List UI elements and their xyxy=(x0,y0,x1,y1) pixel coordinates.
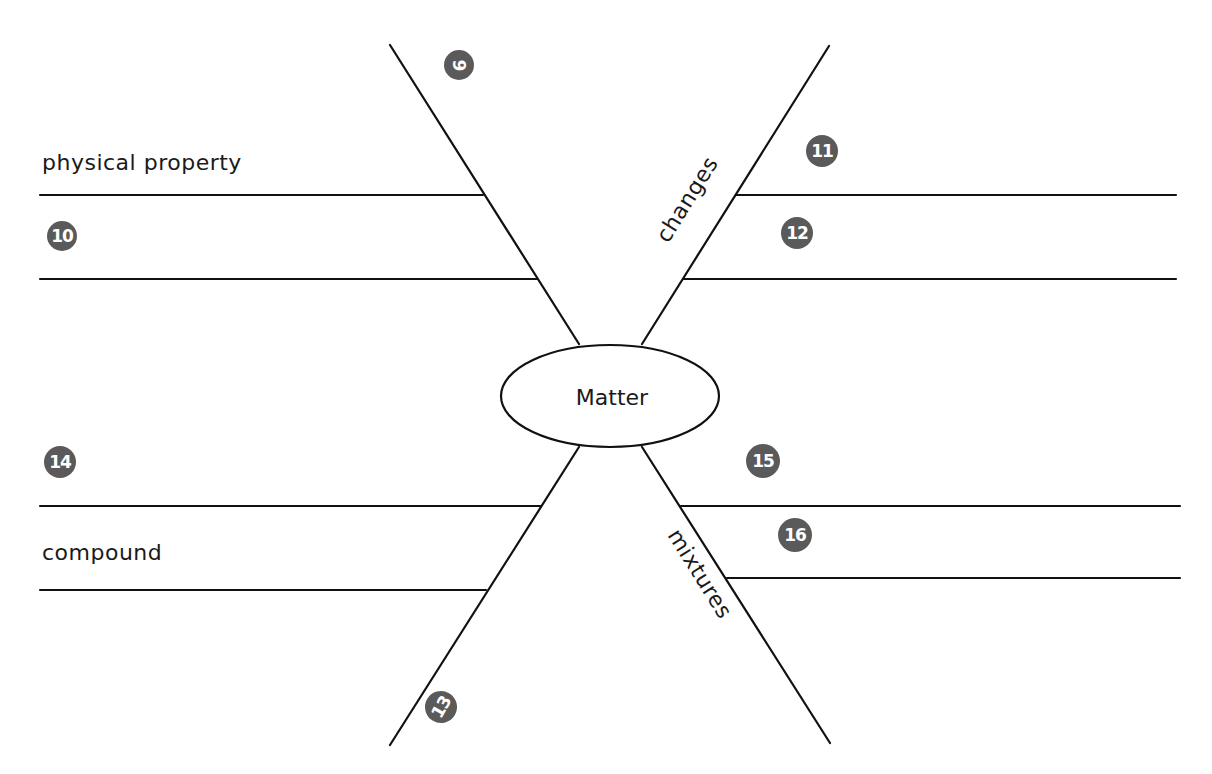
badge-number: 14 xyxy=(49,452,72,472)
diagonal-line-lower-left xyxy=(390,447,579,745)
badge-14: 14 xyxy=(44,446,76,478)
badge-number: 10 xyxy=(51,226,74,246)
badge-10: 10 xyxy=(47,221,77,251)
badge-number: 15 xyxy=(752,451,774,471)
badge-9: 9 xyxy=(444,50,474,80)
badge-16: 16 xyxy=(778,518,812,552)
branch-text-compound: compound xyxy=(42,540,162,565)
leg-lower-left: 14 compound 13 xyxy=(40,446,579,745)
badge-number: 9 xyxy=(449,60,469,71)
badge-15: 15 xyxy=(746,444,780,478)
center-node: Matter xyxy=(501,345,719,447)
leg-upper-left: 9 physical property 10 xyxy=(40,45,579,344)
badge-number: 16 xyxy=(784,525,806,545)
badge-number: 11 xyxy=(811,141,833,161)
badge-number: 12 xyxy=(786,223,808,243)
leg-lower-right: 15 16 mixtures xyxy=(642,444,1180,743)
matter-spider-map: 9 physical property 10 changes 11 12 Mat… xyxy=(0,0,1212,774)
branch-text-physical-property: physical property xyxy=(42,150,242,175)
leg-upper-right: changes 11 12 xyxy=(642,46,1176,344)
badge-12: 12 xyxy=(781,217,813,249)
badge-13: 13 xyxy=(419,685,463,729)
diagonal-line-lower-right xyxy=(642,447,830,743)
badge-11: 11 xyxy=(806,135,838,167)
center-label: Matter xyxy=(576,385,649,410)
